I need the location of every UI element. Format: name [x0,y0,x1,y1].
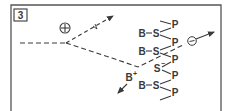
track-mark-icon [93,24,97,29]
sulfur-anion-label: S [154,63,161,74]
sulfur-label: S [153,46,160,57]
sulfur-label: S [153,80,160,91]
base-label: B [138,80,145,91]
scattered-track-arrow [66,16,113,43]
phosphate-label: P [172,70,179,81]
ion-reaction-diagram: 3 B [0,0,231,111]
panel-number-label: 3 [18,10,24,21]
panel-frame [11,5,221,111]
phosphate-label: P [172,54,179,65]
phosphate-label: P [172,19,179,30]
panel-number-badge: 3 [14,9,27,21]
electron-exit-arrow [196,32,214,39]
anion-charge-label: − [161,60,165,67]
phosphate-label: P [172,37,179,48]
electron-icon [188,37,197,46]
secondary-track-line [66,43,185,67]
cation-label: B [125,72,132,83]
sulfur-label: S [153,28,160,39]
positive-ion-icon [60,23,70,33]
base-label: B [138,46,145,57]
phosphate-label: P [172,87,179,98]
cation-charge-label: + [133,70,137,77]
cation-exit-arrow [118,84,127,93]
base-label: B [138,28,145,39]
chain-labels: B S B S S − B S P P P P P [138,19,178,98]
released-cation: B + [118,70,137,93]
